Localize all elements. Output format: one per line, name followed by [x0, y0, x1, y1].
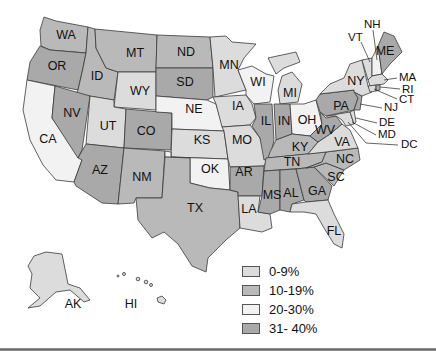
label-la: LA: [241, 202, 257, 216]
legend-swatch: [242, 266, 260, 277]
label-mt: MT: [126, 46, 144, 60]
label-dc: DC: [401, 138, 418, 150]
label-ne: NE: [185, 102, 202, 116]
legend-item-10-19: 10-19%: [242, 281, 317, 300]
label-nv: NV: [63, 106, 81, 120]
label-nh: NH: [364, 18, 381, 30]
label-ia: IA: [232, 99, 244, 113]
label-oh: OH: [298, 113, 317, 127]
label-tx: TX: [187, 201, 204, 215]
label-wa: WA: [56, 28, 76, 42]
label-wi: WI: [250, 75, 265, 89]
label-al: AL: [283, 186, 298, 200]
label-ar: AR: [235, 165, 252, 179]
label-il: IL: [261, 114, 271, 128]
us-map: WA OR ID MT WY CA NV UT CO AZ NM ND SD N…: [0, 0, 436, 358]
label-mn: MN: [219, 58, 238, 72]
label-ca: CA: [39, 132, 57, 146]
label-fl: FL: [327, 224, 342, 238]
label-me: ME: [376, 44, 395, 58]
legend-swatch: [242, 285, 260, 296]
label-vt: VT: [348, 31, 363, 43]
label-or: OR: [48, 59, 67, 73]
label-hi: HI: [125, 297, 138, 311]
label-nm: NM: [132, 170, 151, 184]
label-wy: WY: [130, 84, 151, 98]
label-id: ID: [91, 69, 104, 83]
legend-label: 20-30%: [269, 302, 314, 317]
legend-item-31-40: 31- 40%: [242, 319, 317, 338]
legend-label: 10-19%: [269, 283, 314, 298]
bottom-divider: [0, 348, 436, 351]
label-co: CO: [137, 124, 156, 138]
label-ma: MA: [399, 71, 417, 83]
label-ok: OK: [201, 162, 220, 176]
legend-swatch: [242, 323, 260, 334]
legend-label: 31- 40%: [269, 321, 317, 336]
legend-item-0-9: 0-9%: [242, 262, 317, 281]
label-ga: GA: [308, 184, 327, 198]
label-ks: KS: [194, 133, 211, 147]
label-md: MD: [378, 128, 396, 140]
label-va: VA: [334, 135, 350, 149]
label-nd: ND: [177, 45, 195, 59]
label-ny: NY: [347, 74, 365, 88]
label-ut: UT: [100, 119, 117, 133]
label-nj: NJ: [384, 101, 398, 113]
label-wv: WV: [315, 123, 336, 137]
label-az: AZ: [92, 163, 108, 177]
label-de: DE: [379, 116, 395, 128]
label-ky: KY: [292, 140, 309, 154]
label-pa: PA: [333, 99, 349, 113]
legend-item-20-30: 20-30%: [242, 300, 317, 319]
label-tn: TN: [284, 155, 301, 169]
label-ct: CT: [399, 93, 414, 105]
label-sd: SD: [176, 75, 193, 89]
legend: 0-9% 10-19% 20-30% 31- 40%: [242, 262, 317, 338]
label-in: IN: [278, 114, 291, 128]
legend-label: 0-9%: [269, 264, 299, 279]
label-ak: AK: [65, 297, 82, 311]
label-mi: MI: [283, 86, 297, 100]
label-nc: NC: [336, 152, 354, 166]
label-sc: SC: [327, 170, 344, 184]
legend-swatch: [242, 304, 260, 315]
label-mo: MO: [232, 133, 252, 147]
label-ms: MS: [263, 188, 282, 202]
